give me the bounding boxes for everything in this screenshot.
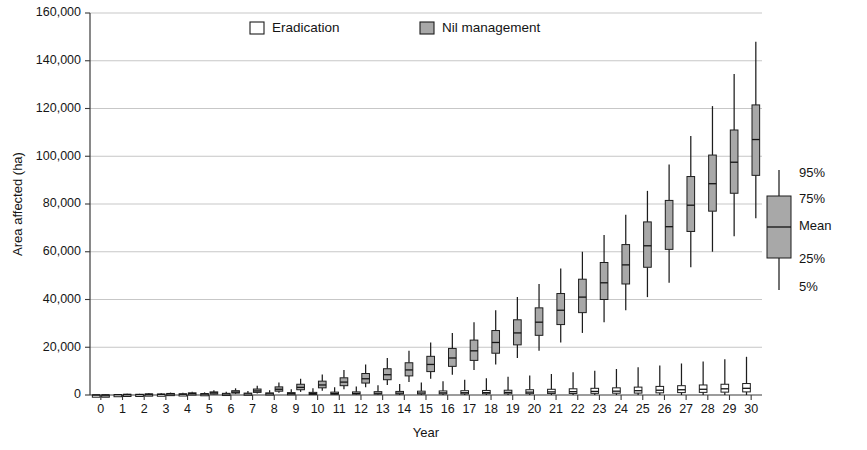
x-axis-title: Year — [413, 425, 440, 440]
x-tick-label: 4 — [184, 402, 191, 416]
boxplot-chart: 020,00040,00060,00080,000100,000120,0001… — [0, 0, 867, 450]
y-axis-title: Area affected (ha) — [10, 152, 25, 256]
x-tick-label: 17 — [462, 402, 476, 416]
x-tick-label: 0 — [97, 402, 104, 416]
key-label-5pct: 5% — [799, 279, 818, 294]
x-tick-label: 6 — [227, 402, 234, 416]
x-tick-label: 22 — [571, 402, 585, 416]
x-tick-label: 9 — [292, 402, 299, 416]
x-tick-label: 23 — [592, 402, 606, 416]
x-tick-label: 10 — [311, 402, 325, 416]
x-tick-label: 27 — [679, 402, 693, 416]
x-tick-label: 21 — [549, 402, 563, 416]
x-tick-label: 24 — [614, 402, 628, 416]
y-tick-label: 0 — [74, 387, 81, 401]
x-tick-label: 3 — [162, 402, 169, 416]
x-tick-label: 16 — [441, 402, 455, 416]
key-label-25pct: 25% — [799, 251, 825, 266]
x-tick-label: 5 — [206, 402, 213, 416]
y-tick-label: 40,000 — [43, 292, 81, 306]
box-plot-eradication-year-1 — [114, 394, 122, 396]
chart-background — [0, 0, 867, 450]
x-tick-label: 19 — [506, 402, 520, 416]
x-tick-label: 18 — [484, 402, 498, 416]
x-tick-label: 14 — [397, 402, 411, 416]
legend-swatch-1 — [420, 22, 434, 34]
x-tick-label: 30 — [744, 402, 758, 416]
x-tick-label: 13 — [376, 402, 390, 416]
box-iqr — [665, 200, 673, 249]
y-tick-label: 160,000 — [36, 5, 81, 19]
x-tick-label: 15 — [419, 402, 433, 416]
x-tick-label: 2 — [141, 402, 148, 416]
x-tick-label: 29 — [723, 402, 737, 416]
box-plot-nil-management-year-2 — [145, 393, 153, 396]
x-tick-label: 12 — [354, 402, 368, 416]
y-tick-label: 140,000 — [36, 53, 81, 67]
x-tick-label: 28 — [701, 402, 715, 416]
box-plot-nil-management-year-1 — [123, 394, 131, 397]
x-tick-label: 8 — [271, 402, 278, 416]
x-tick-label: 25 — [636, 402, 650, 416]
y-tick-label: 100,000 — [36, 149, 81, 163]
box-iqr — [687, 177, 695, 232]
key-label-mean: Mean — [799, 218, 832, 233]
box-plot-nil-management-year-0 — [102, 395, 110, 397]
x-tick-label: 11 — [333, 402, 346, 416]
box-plot-eradication-year-0 — [92, 395, 100, 397]
chart-canvas: 020,00040,00060,00080,000100,000120,0001… — [0, 0, 867, 450]
box-plot-nil-management-year-3 — [167, 393, 175, 396]
box-iqr — [613, 388, 621, 393]
box-iqr — [557, 294, 565, 325]
key-label-95pct: 95% — [799, 165, 825, 180]
key-label-75pct: 75% — [799, 191, 825, 206]
x-tick-label: 1 — [119, 402, 126, 416]
box-plot-eradication-year-2 — [136, 394, 144, 397]
legend-label-1: Nil management — [442, 20, 541, 35]
y-tick-label: 120,000 — [36, 101, 81, 115]
y-tick-label: 60,000 — [43, 244, 81, 258]
box-iqr — [644, 222, 652, 267]
x-tick-label: 26 — [657, 402, 671, 416]
x-tick-label: 20 — [527, 402, 541, 416]
box-plot-eradication-year-4 — [179, 393, 187, 396]
y-tick-label: 80,000 — [43, 196, 81, 210]
legend-swatch-0 — [250, 22, 264, 34]
box-plot-eradication-year-3 — [157, 393, 165, 396]
y-tick-label: 20,000 — [43, 340, 81, 354]
box-iqr — [579, 279, 587, 312]
x-tick-label: 7 — [249, 402, 256, 416]
box-iqr — [600, 262, 608, 299]
legend-label-0: Eradication — [272, 20, 340, 35]
